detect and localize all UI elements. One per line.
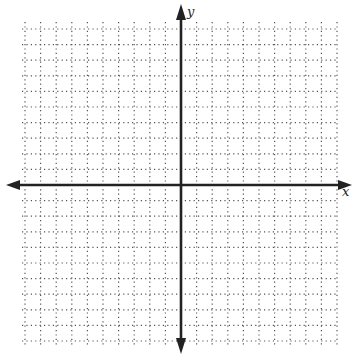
coordinate-grid	[0, 0, 357, 355]
x-axis-label: x	[342, 184, 349, 199]
y-axis-label: y	[187, 4, 194, 19]
axes	[6, 4, 352, 354]
